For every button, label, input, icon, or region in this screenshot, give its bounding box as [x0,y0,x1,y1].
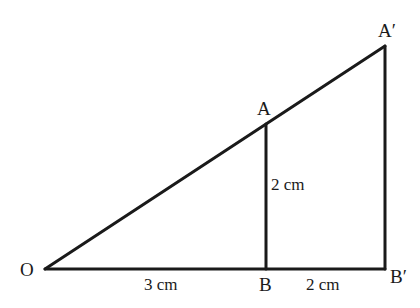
segment-o-a-prime [45,46,385,269]
dimension-ob: 3 cm [144,275,178,294]
label-point-b: B [259,274,272,295]
dimension-ab: 2 cm [271,175,305,194]
dimension-bb-prime: 2 cm [306,275,340,294]
label-point-b-prime: B′ [390,266,407,287]
label-point-o: O [20,259,34,280]
label-point-a: A [257,98,271,119]
similar-triangles-diagram: O A A′ B B′ 3 cm 2 cm 2 cm [0,0,420,308]
label-point-a-prime: A′ [378,20,396,41]
